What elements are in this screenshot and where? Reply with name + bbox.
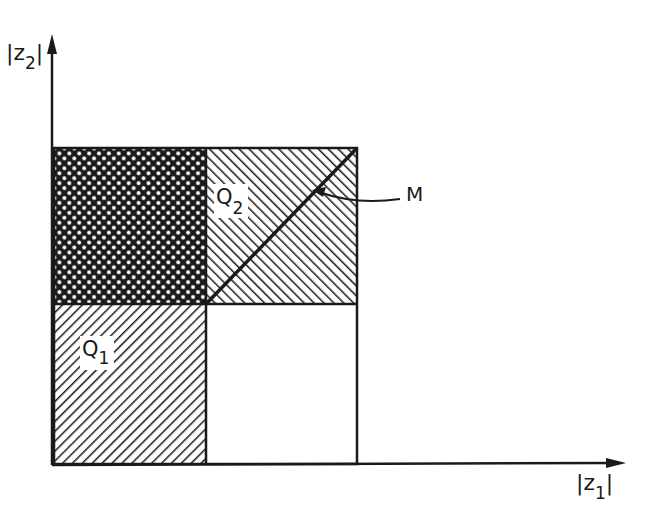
region-empty: [206, 304, 357, 464]
x-axis-label: |z1|: [576, 470, 613, 503]
x-axis-arrow-icon: [606, 458, 626, 468]
y-axis-label: |z2|: [6, 40, 43, 73]
diagram-canvas: |z2| |z1| Q2 Q1 M: [0, 0, 648, 523]
region-q1: [54, 304, 206, 464]
region-intersection: [54, 148, 206, 304]
m-label: M: [406, 182, 423, 206]
y-axis-arrow-icon: [47, 34, 57, 54]
